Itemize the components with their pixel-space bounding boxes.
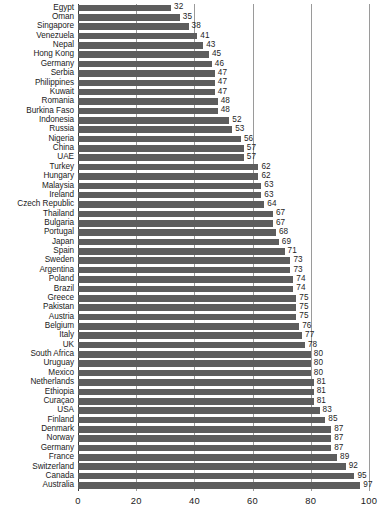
bar-row: 87 (78, 435, 369, 444)
bar (78, 173, 258, 180)
bar (78, 314, 296, 321)
bar (78, 229, 276, 236)
bar-row: 75 (78, 294, 369, 303)
category-label: Pakistan (0, 303, 74, 312)
bar (78, 332, 302, 339)
bar-row: 52 (78, 116, 369, 125)
bar (78, 463, 346, 470)
bar-row: 74 (78, 276, 369, 285)
category-label: Spain (0, 247, 74, 256)
bar-row: 77 (78, 332, 369, 341)
category-label: Japan (0, 238, 74, 247)
bar (78, 211, 273, 218)
category-label: UAE (0, 153, 74, 162)
bar-row: 41 (78, 32, 369, 41)
bar-row: 57 (78, 144, 369, 153)
bar (78, 117, 229, 124)
bar-row: 97 (78, 482, 369, 491)
bar (78, 257, 290, 264)
bar (78, 295, 296, 302)
category-label: Russia (0, 125, 74, 134)
bar (78, 323, 299, 330)
category-label: Curaçao (0, 397, 74, 406)
bar-value-label: 57 (244, 152, 256, 162)
x-tick-label: 20 (131, 495, 142, 507)
bar (78, 5, 171, 12)
bar (78, 42, 203, 49)
bar-row: 53 (78, 126, 369, 135)
bar-row: 48 (78, 107, 369, 116)
category-label: Ethiopia (0, 388, 74, 397)
category-label: Czech Republic (0, 200, 74, 209)
category-label: Norway (0, 434, 74, 443)
category-label: Austria (0, 313, 74, 322)
category-label: Malaysia (0, 182, 74, 191)
bar-row: 74 (78, 285, 369, 294)
bar (78, 276, 293, 283)
category-label: Serbia (0, 69, 74, 78)
bar (78, 145, 244, 152)
bar-row: 67 (78, 219, 369, 228)
bar-row: 56 (78, 135, 369, 144)
x-tick-label: 40 (189, 495, 200, 507)
category-label: Thailand (0, 210, 74, 219)
category-label: Nepal (0, 41, 74, 50)
x-tick-label: 80 (305, 495, 316, 507)
category-label: Mexico (0, 369, 74, 378)
bar-row: 95 (78, 472, 369, 481)
bar (78, 351, 311, 358)
category-label: Philippines (0, 79, 74, 88)
category-label: Argentina (0, 266, 74, 275)
bar-row: 75 (78, 304, 369, 313)
category-label: UK (0, 341, 74, 350)
bar (78, 201, 264, 208)
bar-row: 63 (78, 182, 369, 191)
bar-row: 62 (78, 173, 369, 182)
category-label: Portugal (0, 228, 74, 237)
bar (78, 239, 279, 246)
bar-row: 71 (78, 248, 369, 257)
bar-row: 32 (78, 4, 369, 13)
x-tick-label: 60 (247, 495, 258, 507)
bar-row: 43 (78, 41, 369, 50)
bar-row: 67 (78, 210, 369, 219)
category-label: Venezuela (0, 32, 74, 41)
bar-rows: 3235384143454647474748485253565757626263… (78, 4, 369, 491)
bar (78, 61, 212, 68)
x-axis-tick-labels: 020406080100 (78, 493, 369, 515)
category-label: Romania (0, 97, 74, 106)
bar-row: 92 (78, 463, 369, 472)
category-label: China (0, 144, 74, 153)
bar (78, 70, 215, 77)
category-label: Ireland (0, 191, 74, 200)
bar (78, 342, 305, 349)
category-label: Sweden (0, 256, 74, 265)
bar (78, 417, 325, 424)
bar (78, 482, 360, 489)
bar-row: 87 (78, 425, 369, 434)
bar (78, 80, 215, 87)
bar (78, 360, 311, 367)
bar (78, 248, 285, 255)
category-label: Denmark (0, 425, 74, 434)
category-label: Bulgaria (0, 219, 74, 228)
x-tick-label: 0 (75, 495, 81, 507)
bar (78, 98, 218, 105)
category-label: Switzerland (0, 463, 74, 472)
bar (78, 398, 314, 405)
bar (78, 426, 331, 433)
bar (78, 370, 311, 377)
bar (78, 454, 337, 461)
bar (78, 192, 261, 199)
bar-row: 78 (78, 341, 369, 350)
bar-row: 68 (78, 229, 369, 238)
bar-row: 89 (78, 454, 369, 463)
bar-row: 85 (78, 416, 369, 425)
bar-row: 80 (78, 351, 369, 360)
category-label: Poland (0, 275, 74, 284)
bar (78, 286, 293, 293)
category-label: Kuwait (0, 88, 74, 97)
bar-row: 63 (78, 191, 369, 200)
category-label: Hong Kong (0, 50, 74, 59)
bar-value-label: 97 (360, 480, 372, 490)
